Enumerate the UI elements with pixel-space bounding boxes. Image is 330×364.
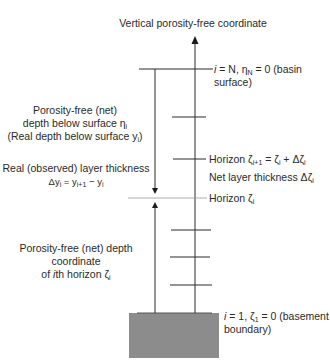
net-depth-coordinate-label: Porosity-free (net) depth coordinate of … xyxy=(0,242,152,281)
label-part: = ζ xyxy=(262,153,279,165)
horizon-i-label: Horizon ζi xyxy=(209,192,254,205)
label-part: ) xyxy=(139,130,143,142)
label-part: depth below surface η xyxy=(23,117,126,129)
label-part: = y xyxy=(61,176,77,187)
thickness-formula: Δyi = yi+1 − yi xyxy=(49,176,104,187)
arrow-down-icon xyxy=(152,188,158,194)
subscript: i xyxy=(304,159,306,166)
subscript: i xyxy=(126,123,128,130)
label-part: of xyxy=(41,268,53,280)
label-part: Net layer thickness Δζ xyxy=(209,171,312,183)
basement-block xyxy=(129,313,219,358)
label-part: Horizon ζ xyxy=(209,192,253,204)
label-part: − y xyxy=(86,176,102,187)
net-depth-below-surface-label: Porosity-free (net) depth below surface … xyxy=(0,104,150,143)
label-part: Horizon ζ xyxy=(209,153,253,165)
basin-surface-label: i = N, ηN = 0 (basin surface) xyxy=(214,63,302,89)
label-part: surface) xyxy=(214,76,252,88)
label-part: coordinate xyxy=(51,255,100,267)
label-part: + Δζ xyxy=(280,153,304,165)
label-part: = 0 (basement xyxy=(259,310,329,322)
axis-title: Vertical porosity-free coordinate xyxy=(113,17,273,30)
subscript: i xyxy=(312,177,314,184)
label-part: Porosity-free (net) depth xyxy=(19,242,132,254)
subscript: i xyxy=(102,181,104,188)
real-layer-thickness-label: Real (observed) layer thickness Δyi = yi… xyxy=(0,162,152,188)
label-part: = 1, ζ xyxy=(226,310,254,322)
axis-arrowhead-icon xyxy=(192,36,199,44)
horizon-next-label: Horizon ζi+1 = ζi + Δζi xyxy=(209,153,306,166)
label-part: Δy xyxy=(49,176,60,187)
label-part: = 0 (basin xyxy=(253,63,302,75)
subscript: i+1 xyxy=(253,159,263,166)
subscript: i+1 xyxy=(77,181,87,188)
label-part: th horizon ζ xyxy=(55,268,109,280)
net-layer-thickness-label: Net layer thickness Δζi xyxy=(209,171,314,184)
label-part: Porosity-free (net) xyxy=(33,104,117,116)
subscript: i xyxy=(109,274,111,281)
subscript: i xyxy=(253,198,255,205)
label-part: Real (observed) layer thickness xyxy=(2,162,149,174)
label-part: = N, η xyxy=(216,63,247,75)
label-part: (Real depth below surface y xyxy=(7,130,137,142)
label-part: boundary) xyxy=(224,323,271,335)
basement-boundary-label: i = 1, ζ1 = 0 (basement boundary) xyxy=(224,310,329,336)
